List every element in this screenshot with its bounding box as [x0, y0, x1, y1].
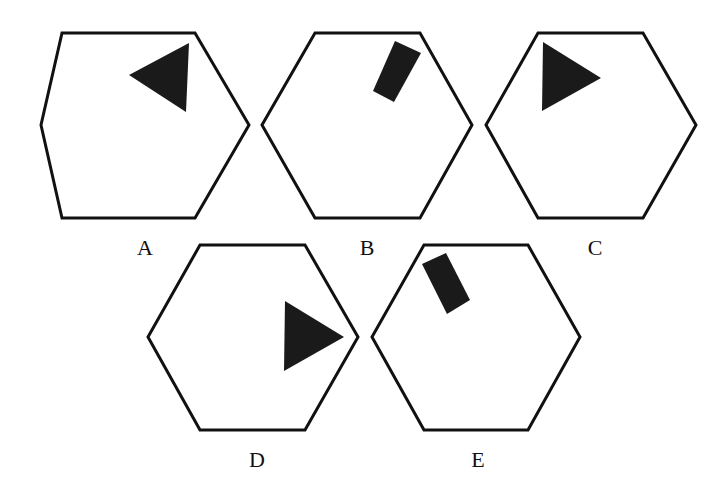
option-c[interactable] — [486, 33, 696, 218]
option-label-a[interactable]: A — [137, 237, 153, 259]
option-e[interactable] — [372, 245, 580, 430]
option-b[interactable] — [262, 33, 472, 218]
puzzle-figure: A B C D E — [0, 0, 722, 492]
hexagon-outline — [262, 33, 472, 218]
option-a[interactable] — [41, 33, 249, 218]
option-label-d[interactable]: D — [249, 449, 265, 471]
hexagon-outline — [41, 33, 249, 218]
option-label-c[interactable]: C — [588, 237, 603, 259]
option-label-e[interactable]: E — [471, 449, 484, 471]
option-d[interactable] — [148, 245, 358, 430]
hexagon-outline — [372, 245, 580, 430]
hexagon-outline — [486, 33, 696, 218]
option-label-b[interactable]: B — [360, 237, 375, 259]
